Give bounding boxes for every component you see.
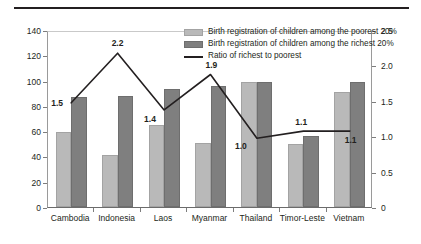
legend: Birth registration of children among the… <box>184 28 384 64</box>
bar-poorest <box>149 125 165 207</box>
legend-swatch-richest-icon <box>184 41 203 48</box>
ratio-value-label: 1.5 <box>51 99 63 108</box>
category-label: Vietnam <box>309 214 389 223</box>
category-tick-mark <box>140 208 141 212</box>
legend-item-ratio: Ratio of richest to poorest <box>184 52 384 61</box>
bar-poorest <box>288 144 304 207</box>
category-tick-mark <box>233 208 234 212</box>
ratio-value-label: 1.0 <box>235 142 247 151</box>
right-axis-tick-mark <box>372 173 376 174</box>
left-axis-tick-label: 40 <box>11 153 41 162</box>
ratio-value-label: 1.1 <box>345 136 357 145</box>
chart-figure: 020406080100120140 00.51.01.52.02.5 1.52… <box>0 0 421 244</box>
bar-richest <box>71 97 87 207</box>
legend-item-richest: Birth registration of children among the… <box>184 40 384 49</box>
bar-poorest <box>102 155 118 207</box>
legend-label-poorest: Birth registration of children among the… <box>208 28 397 36</box>
category-tick-mark <box>186 208 187 212</box>
category-tick-mark <box>326 208 327 212</box>
right-axis-tick-mark <box>372 66 376 67</box>
right-axis-tick-label: 0 <box>381 204 411 213</box>
bar-richest <box>118 96 134 207</box>
bar-poorest <box>56 132 72 207</box>
left-axis-tick-label: 0 <box>11 204 41 213</box>
bar-richest <box>257 82 273 207</box>
bar-poorest <box>195 143 211 207</box>
category-tick-mark <box>279 208 280 212</box>
left-axis-tick-mark <box>43 208 47 209</box>
category-tick-mark <box>93 208 94 212</box>
bar-richest <box>303 136 319 207</box>
right-axis-tick-mark <box>372 137 376 138</box>
legend-swatch-poorest-icon <box>184 29 203 36</box>
bar-poorest <box>334 92 350 207</box>
bar-richest <box>164 89 180 207</box>
right-axis-tick-label: 1.5 <box>381 98 411 107</box>
left-axis-tick-label: 100 <box>11 78 41 87</box>
ratio-value-label: 1.1 <box>295 118 307 127</box>
left-axis-tick-label: 60 <box>11 128 41 137</box>
legend-label-richest: Birth registration of children among the… <box>208 40 394 48</box>
right-axis-tick-label: 1.0 <box>381 133 411 142</box>
right-axis-tick-label: 0.5 <box>381 169 411 178</box>
left-axis-tick-label: 120 <box>11 52 41 61</box>
left-axis-tick-label: 20 <box>11 179 41 188</box>
right-axis-tick-mark <box>372 208 376 209</box>
legend-item-poorest: Birth registration of children among the… <box>184 28 384 37</box>
legend-label-ratio: Ratio of richest to poorest <box>208 52 301 60</box>
left-axis-tick-label: 140 <box>11 27 41 36</box>
left-axis-tick-label: 80 <box>11 103 41 112</box>
ratio-value-label: 1.4 <box>144 115 156 124</box>
top-rule-divider <box>14 7 409 9</box>
right-axis-tick-label: 2.0 <box>381 62 411 71</box>
right-axis-tick-mark <box>372 102 376 103</box>
ratio-value-label: 2.2 <box>112 39 124 48</box>
bar-richest <box>211 86 227 207</box>
legend-swatch-ratio-line-icon <box>184 56 203 58</box>
